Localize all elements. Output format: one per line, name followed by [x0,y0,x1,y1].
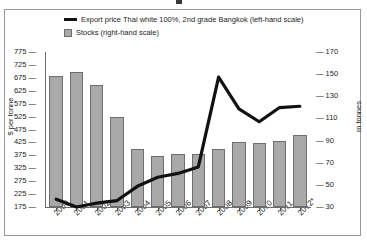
bar-swatch-icon [64,29,72,37]
left-tick-375: 375 — [2,151,36,159]
left-tick-425: 425 — [2,138,36,146]
line-marker-icon [64,18,77,21]
legend-item-export-price: Export price Thai white 100%, 2nd grade … [64,14,304,25]
right-tick-70: — 70 [316,159,350,167]
x-tick-mark-2004 [137,208,138,211]
left-tick-625: 625 — [2,87,36,95]
x-tick-mark-2000 [56,208,57,211]
left-tick-525: 525 — [2,113,36,121]
legend-item-stocks: Stocks (right-hand scale) [64,27,304,38]
x-tick-mark-2009 [239,208,240,211]
left-tick-725: 725 — [2,61,36,69]
right-tick-150: — 150 [316,70,350,78]
x-tick-mark-2005 [158,208,159,211]
right-tick-110: — 110 [316,114,350,122]
x-tick-mark-2006 [178,208,179,211]
x-tick-mark-2002 [97,208,98,211]
left-tick-575: 575 — [2,100,36,108]
right-tick-170: — 170 [316,48,350,56]
right-tick-50: — 50 [316,181,350,189]
x-tick-mark-2003 [117,208,118,211]
x-tick-mark-2008 [219,208,220,211]
left-tick-475: 475 — [2,126,36,134]
line-series-export-price [46,52,310,207]
left-tick-675: 675 — [2,74,36,82]
right-tick-30: — 30 [316,203,350,211]
plot-area [46,52,310,207]
x-tick-mark-2012 [300,208,301,211]
chart-figure: Export price Thai white 100%, 2nd grade … [0,0,367,247]
bottom-axis-line [45,207,311,208]
x-tick-mark-2007 [198,208,199,211]
x-tick-mark-2010 [259,208,260,211]
legend-label-stocks: Stocks (right-hand scale) [76,28,159,37]
left-tick-325: 325 — [2,164,36,172]
x-tick-mark-2011 [280,208,281,211]
right-tick-130: — 130 [316,92,350,100]
legend-label-export-price: Export price Thai white 100%, 2nd grade … [81,15,304,24]
left-tick-275: 275 — [2,177,36,185]
left-tick-775: 775 — [2,48,36,56]
right-axis-title: m tonnes [354,87,363,147]
left-tick-175: 175 — [2,203,36,211]
left-tick-225: 225 — [2,190,36,198]
right-tick-90: — 90 [316,137,350,145]
chart-legend: Export price Thai white 100%, 2nd grade … [64,14,304,40]
